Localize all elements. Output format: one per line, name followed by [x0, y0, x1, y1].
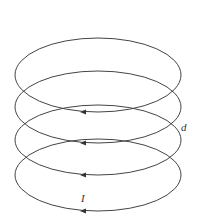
current-arrow-icon: [80, 173, 86, 178]
loops-graphic: [0, 0, 201, 224]
solenoid-diagram: d I: [0, 0, 201, 224]
loop-2: [15, 71, 181, 143]
current-arrow-icon: [80, 209, 86, 214]
current-arrow-icon: [80, 110, 86, 115]
spacing-label: d: [181, 121, 187, 133]
current-arrow-icon: [80, 141, 86, 146]
current-label: I: [81, 192, 85, 204]
loop-3: [15, 105, 181, 175]
loop-1: [15, 38, 181, 112]
